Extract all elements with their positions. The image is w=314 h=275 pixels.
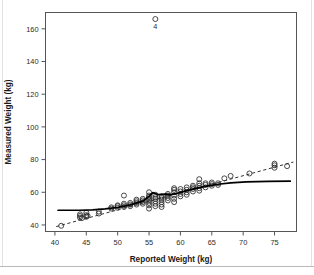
y-tick-label: 160	[26, 25, 38, 34]
y-tick-label: 120	[26, 90, 38, 99]
y-tick-label: 60	[30, 188, 38, 197]
y-tick-label: 80	[30, 155, 38, 164]
point-annotations: 4	[153, 22, 157, 31]
page-margin-left	[2, 0, 3, 266]
x-axis-label: Reported Weight (kg)	[130, 255, 213, 264]
scatter-plot: 4045505560657075 406080100120140160 4 Re…	[0, 0, 314, 275]
x-tick-label: 60	[176, 238, 184, 247]
page-margin-right	[311, 0, 312, 266]
x-tick-label: 40	[51, 238, 59, 247]
figure-container: 4045505560657075 406080100120140160 4 Re…	[0, 0, 314, 275]
x-tick-label: 45	[82, 238, 90, 247]
y-axis-label: Measured Weight (kg)	[4, 79, 13, 164]
y-tick-label: 100	[26, 123, 38, 132]
x-tick-label: 75	[270, 238, 278, 247]
y-tick-label: 140	[26, 57, 38, 66]
y-tick-label: 40	[30, 221, 38, 230]
plot-background	[0, 0, 314, 275]
x-tick-label: 70	[239, 238, 247, 247]
x-tick-label: 50	[114, 238, 122, 247]
x-tick-label: 65	[208, 238, 216, 247]
page-rule-bottom	[0, 266, 314, 267]
outlier-label: 4	[153, 22, 157, 31]
x-tick-label: 55	[145, 238, 153, 247]
